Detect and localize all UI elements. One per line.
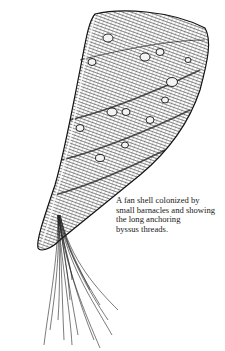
caption-line-4: byssus threads. [116, 225, 225, 235]
figure-caption: A fan shell colonized by small barnacles… [116, 196, 225, 234]
fan-shell-illustration [0, 0, 225, 351]
